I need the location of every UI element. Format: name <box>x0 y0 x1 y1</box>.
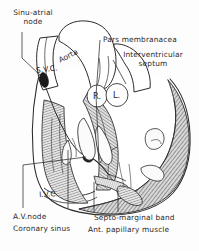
label-left-chamber: L. <box>113 90 120 100</box>
label-coronary-sinus: Coronary sinus <box>13 224 70 233</box>
label-interventricular-septum: Interventricular septum <box>110 50 196 68</box>
label-right-chamber: R. <box>93 91 101 101</box>
heart-conducting-system-figure: Sinu-atrial node Pars membranacea Interv… <box>0 0 199 251</box>
label-septo-marginal-band: Septo-marginal band <box>94 213 175 222</box>
label-sinu-atrial-node: Sinu-atrial node <box>4 8 62 26</box>
label-ivc: I.V.C. <box>39 189 58 199</box>
label-ant-papillary-muscle: Ant. papillary muscle <box>88 225 169 234</box>
label-av-node: A.V.node <box>13 212 46 221</box>
label-pars-membranacea: Pars membranacea <box>103 35 177 44</box>
